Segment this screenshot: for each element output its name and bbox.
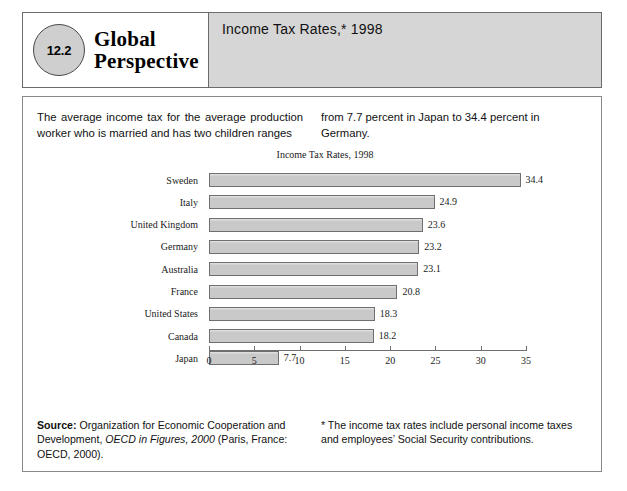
- chart-bar-row: United States18.3: [23, 303, 601, 325]
- chart-bar-row: Canada18.2: [23, 325, 601, 347]
- chart-bar-value-label: 34.4: [526, 173, 544, 187]
- chart-bar: [209, 307, 375, 321]
- intro-paragraph: The average income tax for the average p…: [23, 97, 601, 141]
- chart-bar-value-label: 23.2: [424, 240, 442, 254]
- chart-category-label: France: [23, 286, 204, 297]
- chart-x-tick-label: 10: [295, 355, 305, 366]
- chart-x-tick-label: 30: [476, 355, 486, 366]
- chart-x-tick: [526, 346, 527, 351]
- chart-x-axis: 05101520253035: [209, 350, 526, 357]
- bar-chart: Income Tax Rates, 1998 Sweden34.4Italy24…: [23, 149, 601, 399]
- chart-bar-value-label: 18.3: [380, 307, 398, 321]
- chart-bar-row: France20.8: [23, 281, 601, 303]
- chart-bar-value-label: 18.2: [379, 329, 397, 343]
- chart-category-label: Australia: [23, 264, 204, 275]
- chart-bar: [209, 285, 397, 299]
- banner-title-box: Income Tax Rates,* 1998: [209, 13, 601, 87]
- figure-header-band: 12.2 Global Perspective Income Tax Rates…: [22, 12, 602, 88]
- chart-category-label: Canada: [23, 331, 204, 342]
- figure-number-text: 12.2: [47, 43, 72, 58]
- chart-bar: [209, 329, 374, 343]
- chart-bar-row: Italy24.9: [23, 191, 601, 213]
- chart-category-label: Sweden: [23, 175, 204, 186]
- chart-bar-row: United Kingdom23.6: [23, 214, 601, 236]
- footnotes: Source: Organization for Economic Cooper…: [23, 418, 601, 472]
- chart-bar-row: Sweden34.4: [23, 169, 601, 191]
- figure-number-badge: 12.2: [33, 24, 85, 76]
- chart-x-tick-label: 5: [252, 355, 257, 366]
- chart-x-tick: [209, 346, 210, 351]
- global-perspective-logo-box: 12.2 Global Perspective: [23, 13, 209, 87]
- chart-bar: [209, 195, 435, 209]
- chart-bar: [209, 173, 521, 187]
- chart-x-tick: [481, 346, 482, 351]
- chart-x-tick-label: 25: [430, 355, 440, 366]
- chart-bar-value-label: 24.9: [440, 195, 458, 209]
- chart-bar-value-label: 23.6: [428, 218, 446, 232]
- chart-category-label: Germany: [23, 241, 204, 252]
- chart-x-tick: [435, 346, 436, 351]
- chart-bar: [209, 262, 418, 276]
- chart-bar-value-label: 23.1: [423, 262, 441, 276]
- chart-x-tick: [345, 346, 346, 351]
- logo-line-2: Perspective: [94, 50, 199, 72]
- source-label: Source:: [37, 419, 76, 431]
- figure-body-panel: The average income tax for the average p…: [22, 96, 602, 472]
- chart-x-tick-label: 15: [340, 355, 350, 366]
- chart-x-tick: [390, 346, 391, 351]
- chart-bar: [209, 218, 423, 232]
- logo-line-1: Global: [94, 28, 199, 50]
- banner-title: Income Tax Rates,* 1998: [222, 21, 601, 37]
- chart-x-tick: [300, 346, 301, 351]
- chart-category-label: Italy: [23, 197, 204, 208]
- intro-column-right: from 7.7 percent in Japan to 34.4 percen…: [321, 109, 587, 141]
- chart-bar-row: Australia23.1: [23, 258, 601, 280]
- source-note: Source: Organization for Economic Cooper…: [37, 418, 303, 462]
- intro-column-left: The average income tax for the average p…: [37, 109, 303, 141]
- source-publication-title: OECD in Figures, 2000: [105, 433, 215, 445]
- asterisk-note: * The income tax rates include personal …: [321, 418, 587, 462]
- chart-title: Income Tax Rates, 1998: [23, 149, 601, 160]
- chart-x-tick-label: 20: [385, 355, 395, 366]
- global-perspective-wordmark: Global Perspective: [94, 28, 199, 72]
- chart-bar-row: Germany23.2: [23, 236, 601, 258]
- chart-x-tick-label: 0: [207, 355, 212, 366]
- chart-plot-area: Sweden34.4Italy24.9United Kingdom23.6Ger…: [23, 169, 601, 393]
- chart-x-tick-label: 35: [521, 355, 531, 366]
- chart-category-label: United States: [23, 308, 204, 319]
- chart-bar-value-label: 20.8: [402, 285, 420, 299]
- chart-category-label: Japan: [23, 353, 204, 364]
- chart-category-label: United Kingdom: [23, 219, 204, 230]
- chart-x-tick: [254, 346, 255, 351]
- chart-bar: [209, 240, 419, 254]
